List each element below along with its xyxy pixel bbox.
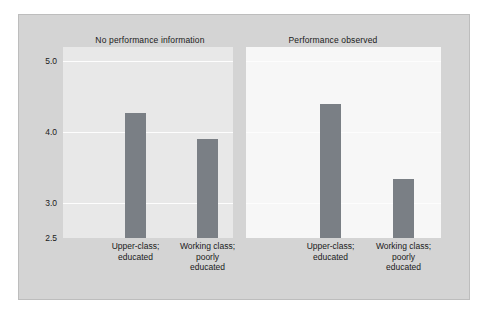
x-axis-category-label: Working class;poorlyeducated — [362, 241, 446, 273]
figure-frame: No performance information Performance o… — [18, 14, 470, 300]
plot-panel-performance-observed — [246, 47, 441, 238]
bar — [320, 104, 341, 238]
bar — [393, 179, 414, 238]
bar — [125, 113, 146, 238]
x-axis-category-label: Working class;poorlyeducated — [166, 241, 250, 273]
panel-title-no-performance-information: No performance information — [64, 35, 236, 45]
panel-title-performance-observed: Performance observed — [247, 35, 419, 45]
bar — [197, 139, 218, 238]
y-axis-tick-label: 5.0 — [19, 56, 57, 66]
y-axis-tick-label: 4.0 — [19, 127, 57, 137]
gridline — [63, 61, 233, 62]
plot-panel-no-performance-information — [63, 47, 233, 238]
x-axis-category-label: Upper-class;educated — [289, 241, 373, 262]
gridline — [246, 132, 441, 133]
gridline — [246, 61, 441, 62]
chart-screenshot: No performance information Performance o… — [0, 0, 488, 320]
gridline — [63, 132, 233, 133]
y-axis-tick-label: 3.0 — [19, 198, 57, 208]
y-axis-tick-label: 2.5 — [19, 233, 57, 243]
